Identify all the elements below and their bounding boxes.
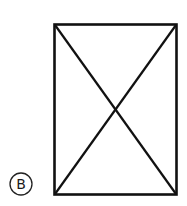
option-label-text: B <box>16 176 26 192</box>
option-label-badge: B <box>10 173 32 195</box>
rectangle-figure <box>55 25 177 195</box>
diagram-canvas: B <box>0 0 187 206</box>
